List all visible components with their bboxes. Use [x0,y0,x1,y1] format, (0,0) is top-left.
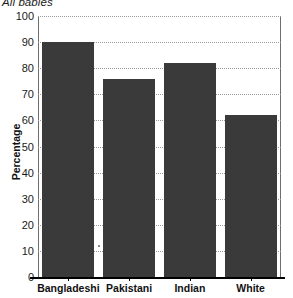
y-axis-tick-label: 0 [0,271,34,283]
y-axis-tick-label: 50 [0,141,34,153]
x-axis-tick-label: Bangladeshi [37,282,99,294]
y-axis-tick-label: 40 [0,167,34,179]
x-axis-tick-label: Indian [174,282,205,294]
x-axis-tick-label: Pakistani [106,282,152,294]
y-axis-tick-label: 90 [0,36,34,48]
bar [225,115,277,277]
y-axis-tick-label: 60 [0,114,34,126]
gridline [38,16,281,17]
x-axis-tick-mark [190,277,191,281]
bar [103,79,155,277]
bar [42,42,94,277]
bar-chart-figure: All babies Percentage 010203040506070809… [0,0,293,298]
y-axis-tick-label: 30 [0,193,34,205]
y-axis-tick-label: 100 [0,10,34,22]
y-axis-tick-label: 70 [0,88,34,100]
y-axis-tick-label: 20 [0,219,34,231]
plot-area [38,16,281,277]
bar [164,63,216,277]
y-axis-tick-labels: 0102030405060708090100 [0,16,34,277]
x-axis-tick-mark [68,277,69,281]
x-axis-tick-label: White [236,282,265,294]
x-axis-tick-mark [251,277,252,281]
y-axis-tick-label: 10 [0,245,34,257]
x-axis-tick-mark [129,277,130,281]
y-axis-tick-label: 80 [0,62,34,74]
chart-title: All babies [2,0,53,8]
image-artifact-speck [98,245,100,247]
